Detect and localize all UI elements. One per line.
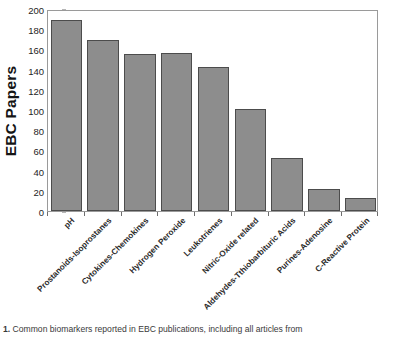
y-axis-tick-label: 120: [28, 85, 44, 96]
figure-caption-text: Common biomarkers reported in EBC public…: [13, 324, 303, 334]
y-axis-tick-label: 140: [28, 65, 44, 76]
bar: [124, 54, 155, 211]
bar: [87, 40, 118, 211]
y-axis-tick-label: 200: [28, 5, 44, 16]
y-axis-tick-label: 180: [28, 25, 44, 36]
y-axis-tick-label: 40: [33, 166, 44, 177]
bar: [161, 53, 192, 211]
x-axis-tick-label: Cytokines-Chemokines: [80, 216, 150, 286]
y-axis-ticks: 020406080100120140160180200: [18, 10, 44, 212]
y-axis-tick-label: 80: [33, 126, 44, 137]
bar: [271, 158, 302, 211]
bar: [345, 198, 376, 211]
x-axis-tick-label: pH: [63, 216, 77, 230]
x-axis-labels: pHProstanoids-IsoprostanesCytokines-Chem…: [47, 216, 393, 326]
y-axis-tick-label: 100: [28, 106, 44, 117]
y-axis-tick-label: 20: [33, 186, 44, 197]
plot-area: [47, 10, 378, 212]
bar: [308, 189, 339, 211]
bar: [51, 20, 82, 211]
figure-caption: 1. Common biomarkers reported in EBC pub…: [3, 324, 391, 335]
bars-container: [48, 11, 377, 211]
y-axis-tick-label: 160: [28, 45, 44, 56]
figure-bar-chart: EBC Papers 020406080100120140160180200 p…: [0, 0, 393, 338]
bar: [235, 109, 266, 211]
figure-caption-number: 1.: [3, 324, 10, 334]
y-axis-tick-label: 0: [39, 207, 44, 218]
x-axis-tick-label: Prostanoids-Isoprostanes: [36, 216, 114, 294]
bar: [198, 67, 229, 211]
y-axis-tick-label: 60: [33, 146, 44, 157]
